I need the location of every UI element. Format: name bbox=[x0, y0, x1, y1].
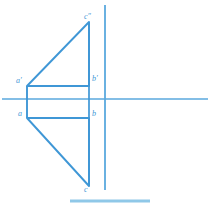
lower-triangle bbox=[27, 118, 89, 186]
label-c-double-prime: c″ bbox=[84, 13, 91, 21]
upper-triangle bbox=[27, 22, 89, 86]
label-a-prime: a′ bbox=[16, 77, 22, 85]
label-a: a bbox=[18, 110, 22, 118]
label-b-prime: b′ bbox=[92, 75, 98, 83]
projection-drawing bbox=[0, 0, 210, 208]
projection-diagram: c″ b′ a′ a b c bbox=[0, 0, 210, 208]
label-b: b bbox=[92, 110, 96, 118]
label-c: c bbox=[84, 186, 88, 194]
